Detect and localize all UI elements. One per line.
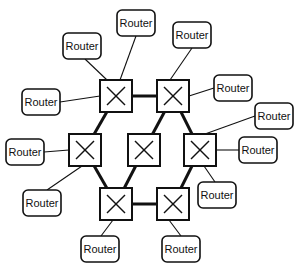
router-label: Router bbox=[24, 96, 57, 108]
switch-node[interactable] bbox=[157, 188, 189, 220]
switch-node[interactable] bbox=[100, 80, 132, 112]
router-node[interactable]: Router bbox=[198, 182, 236, 208]
router-node[interactable]: Router bbox=[173, 22, 211, 48]
router-link bbox=[120, 36, 136, 80]
router-link bbox=[85, 59, 107, 80]
router-label: Router bbox=[257, 110, 290, 122]
switches bbox=[69, 80, 216, 220]
router-link bbox=[189, 88, 214, 96]
router-label: Router bbox=[241, 144, 274, 156]
network-topology-diagram: RouterRouterRouterRouterRouterRouterRout… bbox=[0, 0, 299, 272]
router-link bbox=[101, 220, 113, 236]
router-node[interactable]: Router bbox=[117, 10, 155, 36]
router-link bbox=[205, 116, 255, 134]
router-node[interactable]: Router bbox=[255, 103, 293, 129]
router-node[interactable]: Router bbox=[239, 137, 277, 163]
router-label: Router bbox=[164, 243, 197, 255]
router-label: Router bbox=[216, 82, 249, 94]
router-node[interactable]: Router bbox=[6, 139, 44, 165]
switch-node[interactable] bbox=[69, 134, 101, 166]
router-label: Router bbox=[65, 40, 98, 52]
switch-node[interactable] bbox=[184, 134, 216, 166]
router-label: Router bbox=[175, 29, 208, 41]
router-node[interactable]: Router bbox=[23, 190, 61, 216]
router-link bbox=[204, 166, 215, 182]
switch-node[interactable] bbox=[157, 80, 189, 112]
router-link bbox=[169, 220, 181, 236]
router-node[interactable]: Router bbox=[162, 236, 200, 262]
router-link bbox=[47, 166, 82, 190]
router-label: Router bbox=[8, 146, 41, 158]
switch-node[interactable] bbox=[100, 188, 132, 220]
router-node[interactable]: Router bbox=[81, 236, 119, 262]
router-node[interactable]: Router bbox=[63, 33, 101, 59]
router-node[interactable]: Router bbox=[214, 75, 252, 101]
router-label: Router bbox=[119, 17, 152, 29]
router-link bbox=[44, 150, 69, 152]
router-label: Router bbox=[200, 189, 233, 201]
router-label: Router bbox=[83, 243, 116, 255]
router-link bbox=[170, 48, 192, 80]
router-link bbox=[60, 96, 100, 102]
router-node[interactable]: Router bbox=[22, 89, 60, 115]
router-label: Router bbox=[25, 197, 58, 209]
switch-node[interactable] bbox=[128, 134, 160, 166]
